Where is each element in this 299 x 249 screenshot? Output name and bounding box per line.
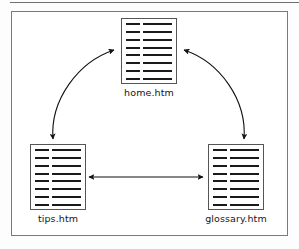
document-line-row: [35, 173, 81, 175]
connector-home-glossary: [184, 50, 244, 139]
document-line-row: [35, 157, 81, 159]
document-line-row: [213, 173, 259, 175]
node-label-glossary: glossary.htm: [205, 213, 267, 224]
document-line-row: [35, 196, 81, 198]
document-line-row: [35, 149, 81, 151]
document-line-row: [213, 165, 259, 167]
document-line-row: [213, 149, 259, 151]
document-line-row: [213, 204, 259, 206]
document-line-row: [35, 180, 81, 182]
document-line-row: [35, 188, 81, 190]
node-tips[interactable]: tips.htm: [29, 144, 87, 224]
document-line-row: [35, 204, 81, 206]
connector-home-tips: [53, 50, 114, 139]
document-icon: [121, 18, 177, 84]
document-line-row: [126, 54, 172, 56]
document-line-row: [126, 23, 172, 25]
document-line-row: [126, 62, 172, 64]
document-line-row: [213, 196, 259, 198]
node-label-home: home.htm: [120, 87, 178, 98]
document-icon: [30, 144, 86, 210]
document-line-row: [126, 39, 172, 41]
document-line-row: [126, 70, 172, 72]
node-glossary[interactable]: glossary.htm: [205, 144, 267, 224]
document-icon: [208, 144, 264, 210]
document-line-row: [35, 165, 81, 167]
document-line-row: [126, 78, 172, 80]
document-line-row: [126, 31, 172, 33]
document-line-row: [126, 47, 172, 49]
document-line-row: [213, 180, 259, 182]
document-line-row: [213, 188, 259, 190]
document-line-row: [213, 157, 259, 159]
node-label-tips: tips.htm: [29, 213, 87, 224]
node-home[interactable]: home.htm: [120, 18, 178, 98]
